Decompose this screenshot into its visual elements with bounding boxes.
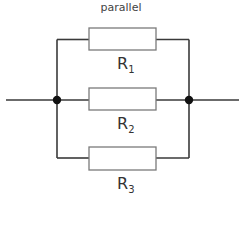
resistor-r3	[89, 147, 156, 170]
resistor-r1	[89, 28, 156, 50]
junction-node-right	[185, 96, 193, 104]
resistor-label-r3: R3	[117, 176, 135, 195]
resistor-label-r1: R1	[117, 56, 135, 75]
resistor-r2	[89, 88, 156, 110]
resistor-label-r2: R2	[117, 116, 135, 135]
junction-node-left	[53, 96, 61, 104]
